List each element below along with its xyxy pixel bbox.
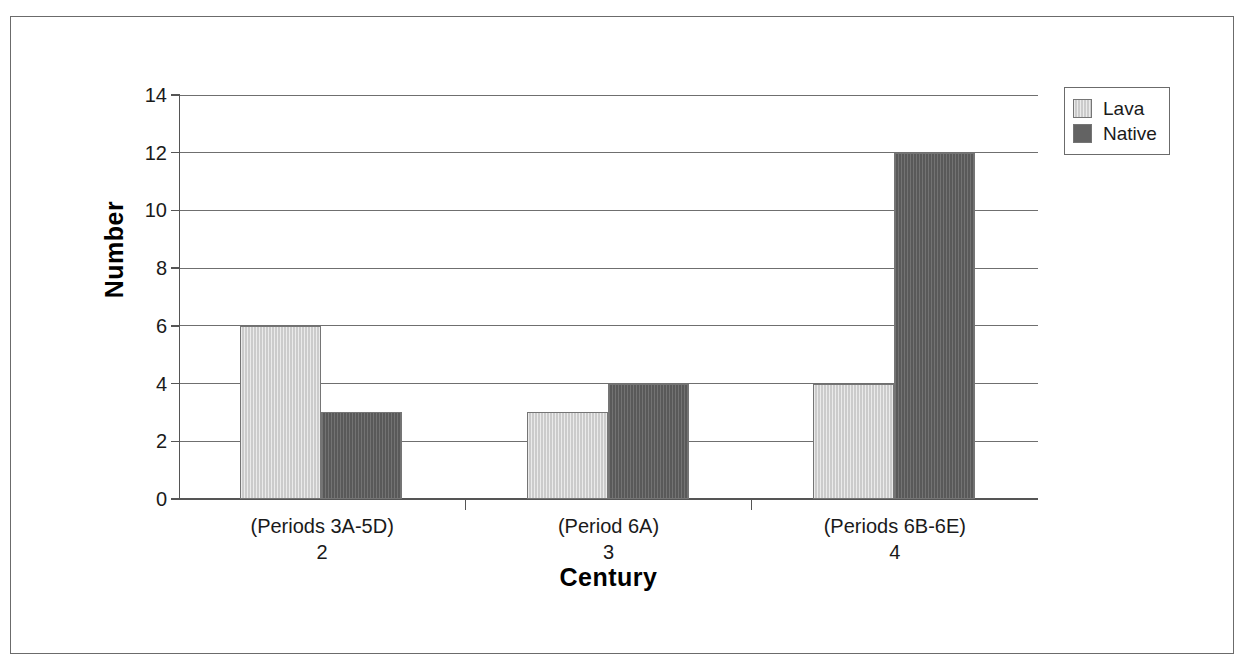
bar-lava-3[interactable] — [813, 384, 894, 499]
category-century-number: 3 — [465, 539, 751, 565]
y-axis-label-6: 6 — [156, 316, 167, 336]
x-axis-category-label: (Period 6A)3 — [465, 513, 751, 565]
bar-native-2[interactable] — [608, 384, 689, 499]
y-axis-label-2: 2 — [156, 431, 167, 451]
legend-label: Lava — [1103, 99, 1144, 118]
y-axis-label-10: 10 — [145, 200, 167, 220]
bars-layer — [180, 95, 1038, 499]
x-axis-tick-mark — [465, 499, 466, 510]
legend-label: Native — [1103, 124, 1157, 143]
chart-legend: LavaNative — [1064, 87, 1170, 155]
y-tick-mark-2 — [171, 441, 180, 442]
legend-item-native[interactable]: Native — [1073, 121, 1159, 146]
y-axis-label-14: 14 — [145, 85, 167, 105]
bar-group — [240, 95, 402, 499]
y-tick-mark-4 — [171, 383, 180, 384]
x-axis-tick-mark — [751, 499, 752, 510]
y-tick-mark-12 — [171, 152, 180, 153]
category-century-number: 2 — [179, 539, 465, 565]
bar-chart: Number 02468101214 (Periods 3A-5D)2(Peri… — [11, 17, 1235, 655]
y-tick-mark-14 — [171, 94, 180, 95]
legend-swatch-lava-icon — [1073, 99, 1092, 118]
category-century-number: 4 — [752, 539, 1038, 565]
category-period-text: (Periods 3A-5D) — [179, 513, 465, 539]
legend-item-lava[interactable]: Lava — [1073, 96, 1159, 121]
bar-lava-1[interactable] — [240, 326, 321, 499]
x-axis-title: Century — [179, 563, 1038, 592]
y-tick-mark-10 — [171, 210, 180, 211]
legend-swatch-native-icon — [1073, 124, 1092, 143]
bar-lava-2[interactable] — [527, 412, 608, 499]
y-axis-label-0: 0 — [156, 489, 167, 509]
y-tick-mark-0 — [171, 498, 180, 499]
y-axis-label-12: 12 — [145, 143, 167, 163]
plot-area — [179, 95, 1038, 499]
bar-group — [527, 95, 689, 499]
x-axis-category-label: (Periods 6B-6E)4 — [752, 513, 1038, 565]
category-period-text: (Periods 6B-6E) — [752, 513, 1038, 539]
y-tick-mark-8 — [171, 267, 180, 268]
bar-native-3[interactable] — [894, 153, 975, 499]
y-axis-label-4: 4 — [156, 374, 167, 394]
x-axis-category-label: (Periods 3A-5D)2 — [179, 513, 465, 565]
category-period-text: (Period 6A) — [465, 513, 751, 539]
y-axis-tick-labels: 02468101214 — [115, 95, 167, 499]
chart-frame: Number 02468101214 (Periods 3A-5D)2(Peri… — [10, 16, 1234, 654]
y-axis-label-8: 8 — [156, 258, 167, 278]
bar-group — [813, 95, 975, 499]
y-tick-mark-6 — [171, 325, 180, 326]
bar-native-1[interactable] — [321, 412, 402, 499]
